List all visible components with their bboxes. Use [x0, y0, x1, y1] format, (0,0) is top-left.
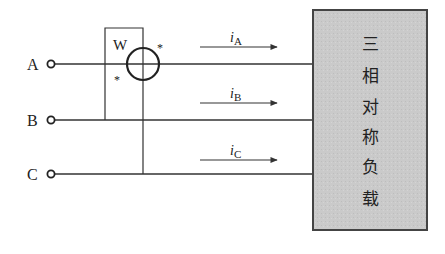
terminal-b — [47, 116, 54, 123]
current-label-c: iC — [230, 143, 241, 160]
load-char-2: 相 — [362, 66, 379, 86]
load-char-4: 称 — [362, 127, 379, 147]
circuit-diagram: A B C W * * iA iB iC 三 相 对 称 负 载 — [0, 0, 445, 254]
terminal-c — [47, 170, 54, 177]
load-char-6: 载 — [362, 189, 379, 209]
terminal-label-b: B — [27, 112, 38, 129]
load-char-3: 对 — [362, 97, 379, 117]
current-label-b: iB — [230, 86, 241, 103]
polarity-mark-current: * — [114, 73, 120, 87]
terminal-label-c: C — [27, 166, 38, 183]
terminal-label-a: A — [27, 56, 39, 73]
load-char-1: 三 — [362, 34, 379, 54]
terminal-a — [47, 60, 54, 67]
current-label-a: iA — [230, 30, 242, 47]
load-char-5: 负 — [362, 157, 379, 177]
polarity-mark-voltage: * — [157, 41, 163, 55]
wattmeter-label: W — [113, 37, 128, 53]
